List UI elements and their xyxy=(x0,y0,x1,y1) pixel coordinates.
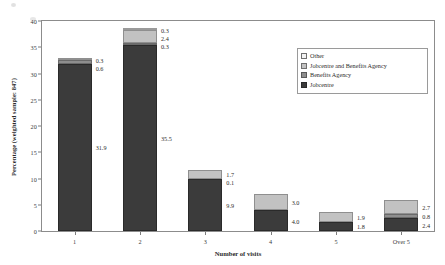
y-axis-tick-label: 10 xyxy=(30,175,37,182)
y-axis-tick-label: 5 xyxy=(34,201,37,208)
bar-segment[interactable] xyxy=(123,28,157,30)
x-axis-tick-mark xyxy=(401,232,402,235)
x-axis-tick-label: 3 xyxy=(204,238,207,245)
legend-swatch-icon xyxy=(301,53,307,59)
bar-value-label: 2.4 xyxy=(422,221,430,228)
bar-segment[interactable] xyxy=(384,200,418,214)
bar-segment[interactable] xyxy=(254,210,288,231)
bar-value-label: 31.9 xyxy=(96,144,107,151)
chart-figure: Percentage (weighted sample: 847) 051015… xyxy=(0,0,445,265)
legend-swatch-icon xyxy=(301,72,307,78)
y-axis-tick-label: 30 xyxy=(30,70,37,77)
y-axis-tick-label: 35 xyxy=(30,44,37,51)
x-axis-tick-label: 4 xyxy=(269,238,272,245)
y-axis-tick-label: 40 xyxy=(30,18,37,25)
bar-segment[interactable] xyxy=(188,179,222,231)
y-axis-title: Percentage (weighted sample: 847) xyxy=(10,52,17,202)
bar-value-label: 35.5 xyxy=(161,134,172,141)
legend-item[interactable]: Jobcentre xyxy=(301,81,423,89)
bar-segment[interactable] xyxy=(58,58,92,60)
y-axis-tick-label: 0 xyxy=(34,228,37,235)
x-axis-tick-mark xyxy=(271,232,272,235)
bar-segment[interactable] xyxy=(319,212,353,222)
legend-swatch-icon xyxy=(301,63,307,69)
x-axis-tick-mark xyxy=(75,232,76,235)
legend-item-label: Benefits Agency xyxy=(310,71,351,79)
scan-artifact-speck xyxy=(11,3,16,7)
legend-item[interactable]: Other xyxy=(301,52,423,60)
bar-value-label: 1.7 xyxy=(226,171,234,178)
bar-value-label: 0.1 xyxy=(226,179,234,186)
bar-segment[interactable] xyxy=(123,45,157,231)
x-axis: 12345Over 5 Number of visits xyxy=(41,232,435,265)
bar-segment[interactable] xyxy=(384,214,418,218)
x-axis-tick-label: 2 xyxy=(138,238,141,245)
bar-value-label: 9.9 xyxy=(226,202,234,209)
y-axis: Percentage (weighted sample: 847) 051015… xyxy=(0,20,41,233)
y-axis-tick-label: 20 xyxy=(30,123,37,130)
bar-value-label: 1.9 xyxy=(357,213,365,220)
bar-value-label: 2.7 xyxy=(422,204,430,211)
bar-value-label: 3.0 xyxy=(292,199,300,206)
bar-segment[interactable] xyxy=(384,218,418,231)
bar-segment[interactable] xyxy=(319,222,353,231)
bar-segment[interactable] xyxy=(58,64,92,231)
bar-value-label: 0.3 xyxy=(161,26,169,33)
bar-segment[interactable] xyxy=(188,170,222,179)
y-axis-tick-label: 15 xyxy=(30,149,37,156)
legend-item[interactable]: Benefits Agency xyxy=(301,71,423,79)
bar-value-label: 1.8 xyxy=(357,223,365,230)
bar-value-label: 0.3 xyxy=(96,56,104,63)
legend-swatch-icon xyxy=(301,82,307,88)
bar-value-label: 4.0 xyxy=(292,217,300,224)
bar-value-label: 0.3 xyxy=(161,42,169,49)
bar-value-label: 0.8 xyxy=(422,213,430,220)
bar-value-label: 0.6 xyxy=(96,64,104,71)
y-axis-tick-label: 25 xyxy=(30,96,37,103)
x-axis-tick-mark xyxy=(205,232,206,235)
x-axis-tick-label: Over 5 xyxy=(393,238,410,245)
x-axis-title: Number of visits xyxy=(41,250,435,257)
legend: OtherJobcentre and Benefits AgencyBenefi… xyxy=(297,48,428,94)
x-axis-tick-mark xyxy=(140,232,141,235)
legend-item[interactable]: Jobcentre and Benefits Agency xyxy=(301,62,423,70)
bar-value-label: 2.4 xyxy=(161,34,169,41)
bar-segment[interactable] xyxy=(254,194,288,210)
x-axis-tick-label: 1 xyxy=(73,238,76,245)
x-axis-tick-label: 5 xyxy=(334,238,337,245)
legend-item-label: Jobcentre xyxy=(310,81,334,89)
legend-item-label: Jobcentre and Benefits Agency xyxy=(310,62,387,70)
x-axis-tick-mark xyxy=(336,232,337,235)
bar-segment[interactable] xyxy=(123,30,157,43)
bar-segment[interactable] xyxy=(58,60,92,63)
legend-item-label: Other xyxy=(310,52,324,60)
